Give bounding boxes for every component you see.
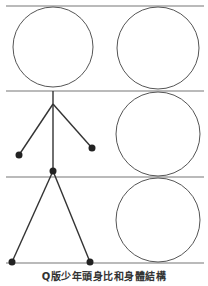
figure-right-arm xyxy=(53,104,92,148)
figure-caption: Q版少年頭身比和身體結構 xyxy=(0,268,208,283)
proportion-diagram xyxy=(0,0,208,286)
figure-right-leg xyxy=(53,171,90,262)
right-foot-joint xyxy=(87,259,94,266)
right-hand-joint xyxy=(89,145,96,152)
hip-joint xyxy=(50,168,57,175)
head-unit-circle-2 xyxy=(116,92,200,176)
left-hand-joint xyxy=(16,152,23,159)
left-foot-joint xyxy=(9,259,16,266)
head-unit-circle-1 xyxy=(117,7,199,89)
figure-left-leg xyxy=(12,171,53,262)
head-unit-circle-3 xyxy=(116,178,200,262)
figure-head-circle xyxy=(13,7,93,87)
figure-left-arm xyxy=(19,104,53,155)
